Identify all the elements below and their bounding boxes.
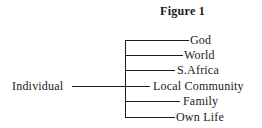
branch-line-safrica (125, 70, 175, 71)
branch-label-family: Family (183, 95, 218, 107)
root-connector (72, 86, 125, 87)
root-label: Individual (12, 80, 63, 92)
branch-label-god: God (190, 34, 211, 46)
branch-label-world: World (184, 49, 215, 61)
branch-line-world (125, 55, 183, 56)
branch-line-god (125, 40, 189, 41)
branch-line-own-life (125, 117, 175, 118)
branch-line-local-community (125, 86, 150, 87)
figure-title: Figure 1 (160, 4, 205, 19)
tree-trunk (125, 40, 126, 118)
branch-label-local-community: Local Community (153, 80, 244, 92)
branch-line-family (125, 101, 180, 102)
branch-label-safrica: S.Africa (177, 64, 219, 76)
branch-label-own-life: Own Life (176, 111, 224, 123)
